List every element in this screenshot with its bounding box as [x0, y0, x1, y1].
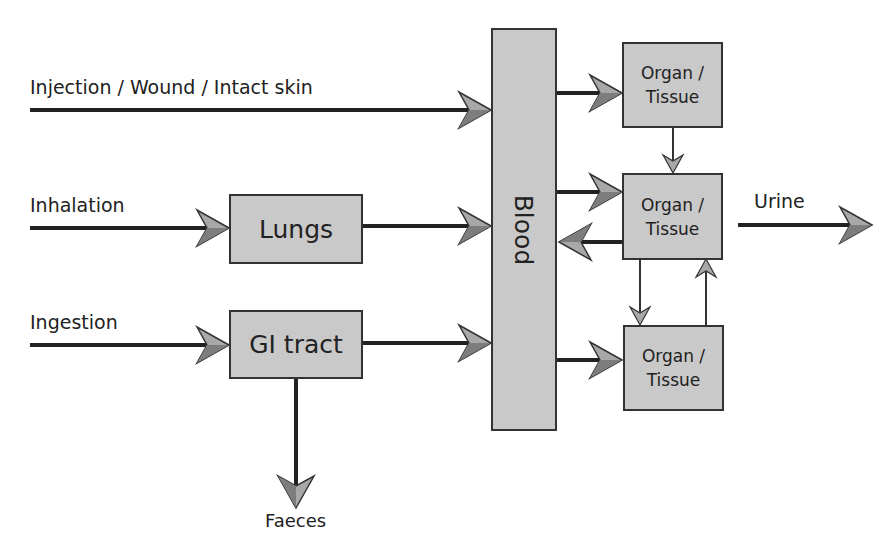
organ-tissue-box-2: Organ / Tissue — [622, 173, 723, 260]
organ3-label: Organ / Tissue — [629, 344, 718, 392]
injection-label: Injection / Wound / Intact skin — [30, 76, 313, 98]
blood-label: Blood — [509, 195, 538, 266]
organ-tissue-box-1: Organ / Tissue — [622, 42, 723, 128]
gi-tract-box: GI tract — [229, 310, 363, 379]
ingestion-label: Ingestion — [30, 311, 118, 333]
lungs-label: Lungs — [259, 215, 333, 244]
organ2-label: Organ / Tissue — [628, 193, 717, 241]
lungs-box: Lungs — [229, 194, 363, 264]
organ1-label: Organ / Tissue — [628, 61, 717, 109]
faeces-label: Faeces — [265, 510, 326, 531]
gi-tract-label: GI tract — [249, 330, 343, 359]
urine-label: Urine — [754, 190, 805, 212]
inhalation-label: Inhalation — [30, 194, 125, 216]
organ-tissue-box-3: Organ / Tissue — [623, 325, 724, 411]
